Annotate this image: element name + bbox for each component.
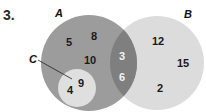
set-a-label: A bbox=[54, 7, 63, 19]
set-b-label: B bbox=[184, 8, 192, 20]
set-c-label: C bbox=[29, 53, 38, 65]
element-a-5: 5 bbox=[66, 36, 72, 48]
element-b-15: 15 bbox=[177, 57, 189, 69]
element-c-9: 9 bbox=[78, 77, 84, 89]
element-ab-3: 3 bbox=[119, 50, 125, 62]
element-b-2: 2 bbox=[157, 82, 163, 94]
problem-number: 3. bbox=[3, 7, 15, 23]
element-ab-6: 6 bbox=[119, 71, 125, 83]
element-a-10: 10 bbox=[84, 54, 96, 66]
element-c-4: 4 bbox=[67, 84, 74, 96]
element-a-8: 8 bbox=[91, 30, 97, 42]
venn-diagram: 3. A B C 5 8 10 9 4 3 6 12 15 2 bbox=[0, 0, 206, 112]
element-b-12: 12 bbox=[152, 35, 164, 47]
